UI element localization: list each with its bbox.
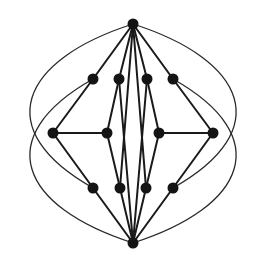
edge-r2c-r3c — [147, 79, 159, 133]
edge-r3c-r4c — [146, 133, 159, 188]
curved-edge-top-r4a — [30, 24, 133, 188]
node-r4c — [141, 183, 152, 194]
node-r2d — [168, 74, 179, 85]
edge-r2a-r3a — [53, 79, 93, 133]
node-r4a — [88, 183, 99, 194]
node-r2b — [114, 74, 125, 85]
node-r3c — [154, 128, 165, 139]
curved-edge-r2a-bottom — [30, 79, 133, 243]
node-r4b — [115, 183, 126, 194]
node-r4d — [168, 183, 179, 194]
curved-edge-top-r4d — [133, 24, 236, 188]
node-r3b — [102, 128, 113, 139]
edge-r2b-r3b — [107, 79, 119, 133]
edge-r3b-r4b — [107, 133, 120, 188]
node-r2c — [142, 74, 153, 85]
straight-edges — [53, 24, 213, 243]
node-r2a — [88, 74, 99, 85]
graph-diagram — [0, 0, 253, 263]
curved-edge-r2d-bottom — [133, 79, 236, 243]
node-top — [128, 19, 139, 30]
edge-r3a-r4a — [53, 133, 93, 188]
node-r3a — [48, 128, 59, 139]
edge-r2d-r3d — [173, 79, 213, 133]
edge-r3d-r4d — [173, 133, 213, 188]
node-r3d — [208, 128, 219, 139]
node-bottom — [128, 238, 139, 249]
